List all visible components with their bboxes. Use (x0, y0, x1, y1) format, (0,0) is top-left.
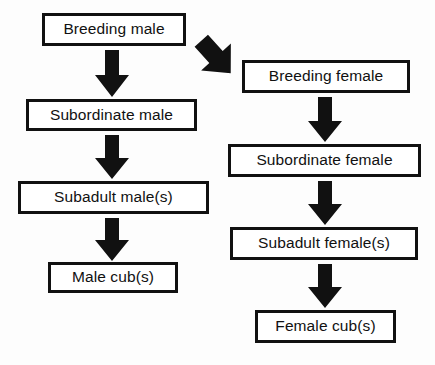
node-label: Subadult female(s) (258, 235, 390, 252)
down-arrow-icon-subordinate-female-to-subadult-female (307, 181, 343, 226)
node-label: Subadult male(s) (54, 189, 173, 206)
node-male-cub: Male cub(s) (48, 262, 178, 293)
node-subordinate-female: Subordinate female (228, 144, 421, 177)
node-label: Breeding female (269, 68, 383, 85)
node-female-cub: Female cub(s) (255, 310, 396, 343)
diagram-canvas: Breeding male Subordinate male Subadult … (0, 0, 435, 365)
node-subadult-female: Subadult female(s) (230, 227, 418, 260)
node-subadult-male: Subadult male(s) (18, 181, 209, 214)
node-label: Subordinate male (50, 107, 173, 124)
node-label: Breeding male (63, 21, 164, 38)
down-arrow-icon-subadult-male-to-male-cub (94, 218, 130, 262)
node-breeding-female: Breeding female (242, 60, 410, 93)
down-arrow-icon-subadult-female-to-female-cub (307, 264, 343, 309)
diagonal-arrow-icon-breeding-male-to-breeding-female (192, 33, 240, 81)
down-arrow-icon-subordinate-male-to-subadult-male (94, 135, 130, 180)
node-breeding-male: Breeding male (42, 13, 186, 46)
node-label: Subordinate female (256, 152, 392, 169)
node-subordinate-male: Subordinate male (26, 99, 197, 131)
down-arrow-icon-breeding-male-to-subordinate-male (94, 50, 130, 98)
down-arrow-icon-breeding-female-to-subordinate-female (307, 97, 343, 143)
node-label: Male cub(s) (72, 269, 154, 286)
node-label: Female cub(s) (275, 318, 375, 335)
